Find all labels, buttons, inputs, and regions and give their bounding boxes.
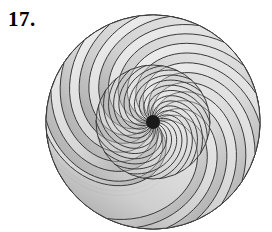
figure-root: 17. [0, 0, 272, 232]
center-dot [146, 115, 160, 129]
spiral-rosette-figure [0, 0, 272, 232]
rosette-petal-group [46, 15, 260, 229]
